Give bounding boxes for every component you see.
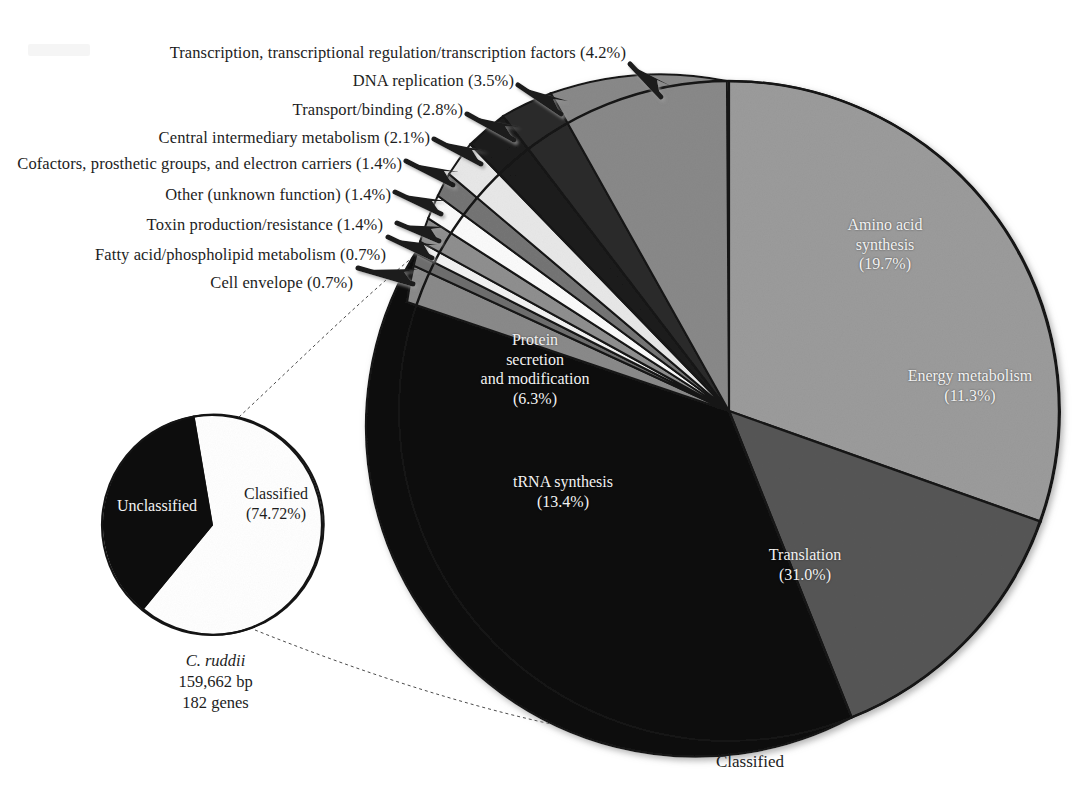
callout-label-other-unknown-function: Other (unknown function) (1.4%) (0, 186, 391, 204)
slice-label-trna-synthesis: tRNA synthesis (13.4%) (468, 472, 658, 511)
slice-label-translation-line1: Translation (769, 546, 841, 563)
bottom-caption-classified: Classified (690, 752, 810, 772)
callout-label-toxin-production-resistance: Toxin production/resistance (1.4%) (0, 216, 383, 234)
slice-label-protein-line3: and modification (481, 370, 590, 387)
figure-canvas: Transcription, transcriptional regulatio… (0, 0, 1089, 799)
slice-label-amino-acid-line2: synthesis (856, 236, 915, 253)
callout-label-central-intermediary-metabolism: Central intermediary metabolism (2.1%) (0, 129, 430, 147)
slice-label-energy-line1: Energy metabolism (908, 367, 1033, 384)
callout-label-transcription: Transcription, transcriptional regulatio… (0, 44, 626, 62)
callout-label-dna-replication: DNA replication (3.5%) (0, 72, 514, 90)
callout-label-fatty-acid-phospholipid-metabolism: Fatty acid/phospholipid metabolism (0.7%… (0, 246, 386, 264)
slice-label-energy-line2: (11.3%) (944, 387, 995, 404)
slice-label-trna-line1: tRNA synthesis (513, 473, 613, 490)
slice-label-translation: Translation (31.0%) (710, 545, 900, 584)
organism-gene-count: 182 genes (182, 693, 248, 712)
mini-pie-classified-name: Classified (244, 485, 308, 502)
organism-name: C. ruddii (186, 651, 246, 670)
slice-label-protein-line4: (6.3%) (513, 390, 557, 407)
slice-label-amino-acid-line3: (19.7%) (859, 255, 911, 272)
arrow-cofactors-tail (406, 161, 453, 185)
callout-label-cell-envelope: Cell envelope (0.7%) (0, 274, 353, 292)
slice-label-protein-line2: secretion (506, 351, 564, 368)
slice-label-protein-secretion-and-modification: Protein secretion and modification (6.3%… (440, 330, 630, 408)
main-pie (366, 74, 1060, 756)
slice-label-energy-metabolism: Energy metabolism (11.3%) (875, 366, 1065, 405)
callout-label-cofactors: Cofactors, prosthetic groups, and electr… (0, 155, 402, 173)
mini-pie-label-unclassified: Unclassified (92, 496, 222, 516)
slice-label-protein-line1: Protein (512, 331, 558, 348)
slice-label-amino-acid-synthesis: Amino acid synthesis (19.7%) (790, 215, 980, 274)
mini-pie-label-classified: Classified (74.72%) (212, 484, 340, 524)
mini-pie (102, 415, 324, 635)
organism-genome-size: 159,662 bp (178, 672, 252, 691)
organism-caption: C. ruddii 159,662 bp 182 genes (128, 650, 303, 713)
slice-label-trna-line2: (13.4%) (537, 493, 589, 510)
callout-label-transport-binding: Transport/binding (2.8%) (0, 101, 463, 119)
slice-label-amino-acid-line1: Amino acid (847, 216, 922, 233)
mini-pie-classified-pct: (74.72%) (246, 505, 306, 522)
slice-label-translation-line2: (31.0%) (779, 566, 831, 583)
